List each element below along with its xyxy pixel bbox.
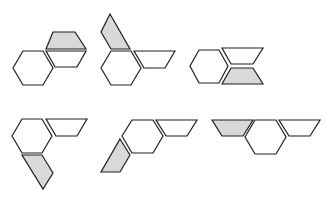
hexagon-shape bbox=[12, 119, 52, 153]
trapezoid-shape bbox=[279, 120, 320, 136]
option-figure-3 bbox=[190, 48, 263, 84]
shaded-trapezoid-shape bbox=[101, 139, 130, 172]
hexagon-shape bbox=[245, 120, 286, 154]
shaded-trapezoid-shape bbox=[101, 14, 130, 49]
option-figure-6 bbox=[212, 120, 320, 154]
shaded-trapezoid-shape bbox=[46, 32, 86, 49]
hexagon-shape bbox=[122, 120, 163, 153]
shape-puzzle-diagram bbox=[0, 0, 329, 206]
hexagon-shape bbox=[190, 50, 228, 83]
trapezoid-shape bbox=[46, 51, 86, 67]
hexagon-shape bbox=[13, 51, 53, 85]
trapezoid-shape bbox=[46, 119, 87, 136]
option-figure-4 bbox=[12, 119, 87, 189]
option-figure-5 bbox=[101, 120, 197, 172]
hexagon-shape bbox=[101, 51, 141, 85]
option-figure-1 bbox=[13, 32, 86, 85]
trapezoid-shape bbox=[222, 48, 263, 64]
shaded-trapezoid-shape bbox=[22, 155, 53, 189]
shaded-trapezoid-shape bbox=[222, 68, 263, 84]
option-figure-2 bbox=[101, 14, 175, 85]
diagram-canvas bbox=[0, 0, 329, 206]
